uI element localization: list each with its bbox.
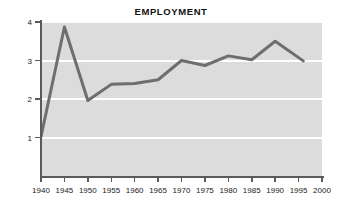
x-axis-tick-label: 2000 — [307, 186, 337, 195]
x-axis-tick — [204, 177, 206, 182]
x-axis-tick — [298, 177, 300, 182]
x-axis-tick — [40, 177, 42, 182]
x-axis-tick — [321, 177, 323, 182]
x-axis-tick — [134, 177, 136, 182]
chart-title: EMPLOYMENT — [0, 6, 342, 17]
y-axis-tick-label: 3 — [16, 57, 32, 66]
y-axis-tick — [35, 60, 40, 62]
y-axis-tick-label: 2 — [16, 95, 32, 104]
y-axis-tick-label: 4 — [16, 18, 32, 27]
y-axis-tick — [35, 98, 40, 100]
x-axis-tick — [157, 177, 159, 182]
x-axis-tick — [181, 177, 183, 182]
x-axis-tick — [111, 177, 113, 182]
y-axis-tick — [35, 137, 40, 139]
y-axis-line — [40, 20, 42, 178]
data-series-line — [41, 22, 322, 176]
employment-line-chart: EMPLOYMENT Total civilian employment (in… — [0, 0, 342, 207]
y-axis-tick-label: 1 — [16, 134, 32, 143]
x-axis-tick — [87, 177, 89, 182]
y-axis-tick — [35, 21, 40, 23]
x-axis-tick — [64, 177, 66, 182]
plot-area — [41, 22, 322, 176]
x-axis-tick — [251, 177, 253, 182]
x-axis-tick — [274, 177, 276, 182]
x-axis-tick — [228, 177, 230, 182]
